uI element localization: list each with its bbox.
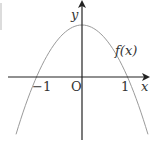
edge-mark <box>0 3 2 30</box>
y-axis-label: y <box>70 7 79 22</box>
tick-label-pos1: 1 <box>121 79 129 94</box>
tick-label-neg1: −1 <box>32 79 51 94</box>
parabola-graph: y x O −1 1 f(x) <box>0 0 155 142</box>
curve-label: f(x) <box>114 43 137 58</box>
x-axis-label: x <box>141 79 149 94</box>
origin-label: O <box>71 79 82 94</box>
